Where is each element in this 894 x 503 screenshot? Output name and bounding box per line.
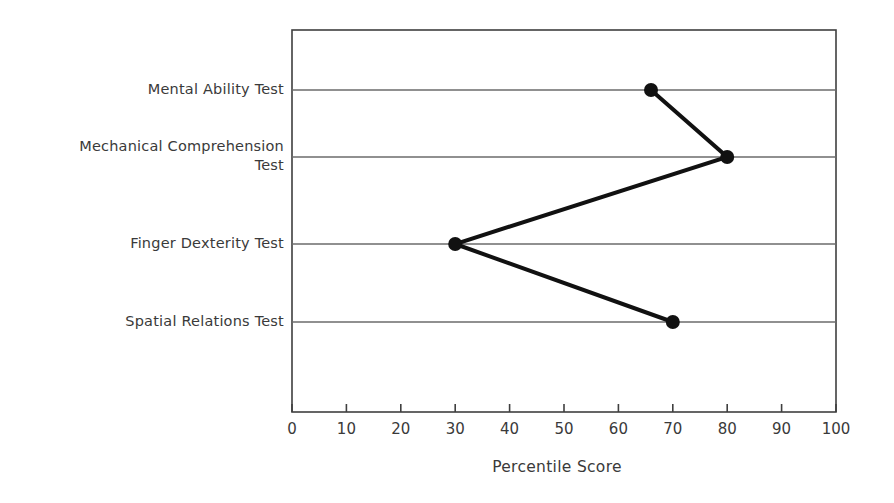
data-point-mental-ability[interactable] bbox=[644, 83, 658, 97]
data-point-spatial-relations[interactable] bbox=[666, 315, 680, 329]
x-axis-title: Percentile Score bbox=[492, 458, 622, 476]
x-tick-label-40: 40 bbox=[500, 420, 519, 438]
x-tick-label-90: 90 bbox=[772, 420, 791, 438]
x-tick-label-10: 10 bbox=[337, 420, 356, 438]
x-tick-label-30: 30 bbox=[446, 420, 465, 438]
plot-frame bbox=[292, 30, 836, 412]
x-tick-label-50: 50 bbox=[554, 420, 573, 438]
x-tick-label-20: 20 bbox=[391, 420, 410, 438]
data-point-mechanical-comprehension[interactable] bbox=[720, 150, 734, 164]
x-axis-title-wrapper: Percentile Score bbox=[0, 458, 894, 476]
data-point-finger-dexterity[interactable] bbox=[448, 237, 462, 251]
x-tick-label-0: 0 bbox=[287, 420, 297, 438]
x-tick-label-60: 60 bbox=[609, 420, 628, 438]
x-tick-label-70: 70 bbox=[663, 420, 682, 438]
x-tick-label-100: 100 bbox=[822, 420, 851, 438]
percentile-score-profile-chart: Mental Ability Test Mechanical Comprehen… bbox=[0, 0, 894, 503]
x-tick-label-80: 80 bbox=[718, 420, 737, 438]
